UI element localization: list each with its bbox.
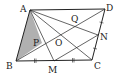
label-d: D xyxy=(106,3,113,13)
label-b: B xyxy=(6,61,13,71)
label-c: C xyxy=(94,61,101,71)
label-o: O xyxy=(55,38,62,48)
label-p: P xyxy=(33,38,39,48)
label-a: A xyxy=(19,4,27,14)
label-n: N xyxy=(100,32,108,42)
label-q: Q xyxy=(71,14,78,24)
parallelogram-diagram: A B C D M N O P Q xyxy=(0,0,117,77)
label-m: M xyxy=(48,65,57,75)
